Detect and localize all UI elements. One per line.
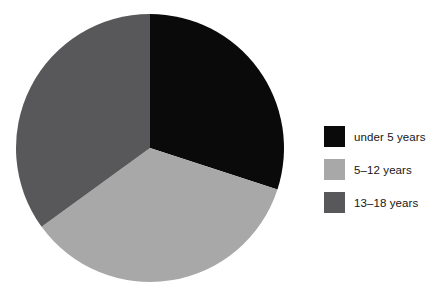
pie-slice-group <box>16 14 284 282</box>
chart-legend: under 5 years 5–12 years 13–18 years <box>324 120 434 219</box>
pie-chart-plot-area <box>0 0 300 304</box>
legend-label-5-12-years: 5–12 years <box>354 164 412 176</box>
legend-swatch-under-5-years <box>324 126 345 147</box>
legend-label-13-18-years: 13–18 years <box>354 197 418 209</box>
legend-item-under-5-years[interactable]: under 5 years <box>324 120 434 153</box>
legend-item-5-12-years[interactable]: 5–12 years <box>324 153 434 186</box>
pie-chart-figure: under 5 years 5–12 years 13–18 years <box>0 0 437 304</box>
legend-swatch-13-18-years <box>324 192 345 213</box>
legend-swatch-5-12-years <box>324 159 345 180</box>
legend-item-13-18-years[interactable]: 13–18 years <box>324 186 434 219</box>
legend-label-under-5-years: under 5 years <box>354 131 426 143</box>
pie-chart-svg <box>0 0 300 304</box>
